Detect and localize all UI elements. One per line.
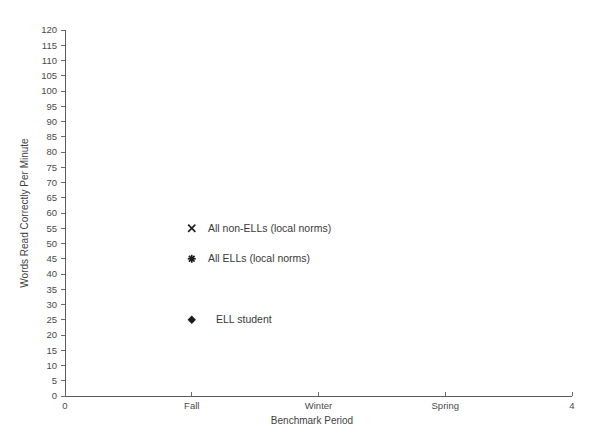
x-axis-title: Benchmark Period <box>271 415 353 426</box>
y-axis-tick-label: 85 <box>46 131 57 142</box>
y-axis: 0510152025303540455055606570758085909510… <box>41 24 65 401</box>
legend-item: ELL student <box>216 313 272 325</box>
y-axis-tick-label: 120 <box>41 24 57 35</box>
y-axis-tick-label: 25 <box>46 314 57 325</box>
y-axis-tick-label: 30 <box>46 299 57 310</box>
chart-figure: 0510152025303540455055606570758085909510… <box>0 0 600 442</box>
legend-item-label: All ELLs (local norms) <box>208 252 310 264</box>
legend-item: All non-ELLs (local norms) <box>208 222 331 234</box>
y-axis-tick-label: 105 <box>41 70 57 81</box>
legend: All non-ELLs (local norms)All ELLs (loca… <box>208 222 331 326</box>
x-axis-tick-label: Fall <box>184 400 199 411</box>
legend-item: All ELLs (local norms) <box>208 252 310 264</box>
y-axis-tick-label: 50 <box>46 238 57 249</box>
y-axis-tick-labels: 0510152025303540455055606570758085909510… <box>41 24 57 401</box>
data-point-diamond <box>188 316 196 324</box>
y-axis-tick-label: 55 <box>46 223 57 234</box>
y-axis-tick-label: 100 <box>41 85 57 96</box>
y-axis-tick-label: 110 <box>42 55 57 66</box>
data-point-cross <box>188 225 195 232</box>
x-axis-tick-labels: 0FallWinterSpring4 <box>62 400 574 411</box>
y-axis-tick-label: 40 <box>46 268 57 279</box>
x-axis-tick-label: Spring <box>432 400 459 411</box>
scatter-plot-canvas: 0510152025303540455055606570758085909510… <box>0 0 600 442</box>
x-axis-ticks <box>65 392 572 396</box>
y-axis-tick-label: 45 <box>46 253 57 264</box>
data-point-asterisk <box>188 255 196 263</box>
legend-item-label: All non-ELLs (local norms) <box>208 222 331 234</box>
legend-item-label: ELL student <box>216 313 272 325</box>
y-axis-ticks <box>61 30 65 396</box>
y-axis-tick-label: 10 <box>46 360 57 371</box>
data-point-markers <box>188 225 196 324</box>
y-axis-tick-label: 80 <box>46 146 57 157</box>
y-axis-tick-label: 60 <box>46 207 57 218</box>
y-axis-tick-label: 95 <box>46 101 57 112</box>
y-axis-tick-label: 0 <box>52 390 57 401</box>
y-axis-tick-label: 70 <box>46 177 57 188</box>
y-axis-tick-label: 15 <box>46 345 57 356</box>
y-axis-tick-label: 90 <box>46 116 57 127</box>
x-axis-tick-label: 4 <box>569 400 574 411</box>
y-axis-tick-label: 65 <box>46 192 57 203</box>
y-axis-tick-label: 20 <box>46 329 57 340</box>
y-axis-tick-label: 35 <box>46 284 57 295</box>
y-axis-tick-label: 5 <box>52 375 57 386</box>
y-axis-tick-label: 115 <box>42 40 57 51</box>
x-axis: 0FallWinterSpring4 <box>62 392 574 411</box>
x-axis-tick-label: 0 <box>62 400 67 411</box>
y-axis-title: Words Read Correctly Per Minute <box>19 138 30 288</box>
x-axis-tick-label: Winter <box>305 400 332 411</box>
y-axis-tick-label: 75 <box>46 162 57 173</box>
